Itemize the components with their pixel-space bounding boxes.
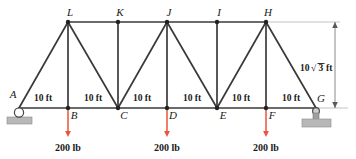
span-dimension-1: 10 ft [84, 93, 103, 103]
truss-diagram-svg: LKJIHABCDEFG 10 ft10 ft10 ft10 ft10 ft10… [0, 0, 356, 159]
joint-L [66, 20, 70, 24]
load-at-B-arrowhead [65, 131, 71, 137]
span-dimension-2: 10 ft [133, 93, 152, 103]
pin-support-G [302, 108, 331, 127]
joint-J [165, 20, 169, 24]
load-arrows [65, 110, 269, 137]
height-dimension-line [332, 22, 338, 108]
node-label-L: L [66, 6, 73, 18]
height-dimension-radicand: 3 [319, 63, 324, 73]
node-label-I: I [216, 6, 222, 18]
joint-B [66, 106, 70, 110]
node-label-B: B [71, 109, 78, 121]
load-at-D-arrowhead [164, 131, 170, 137]
node-label-C: C [120, 109, 128, 121]
truss-members [19, 22, 316, 108]
node-label-G: G [317, 92, 325, 104]
truss-diagram-page: LKJIHABCDEFG 10 ft10 ft10 ft10 ft10 ft10… [0, 0, 356, 159]
height-dimension-prefix: 10 [300, 63, 310, 73]
node-label-H: H [263, 6, 273, 18]
joint-E [215, 106, 219, 110]
joint-H [264, 20, 268, 24]
node-label-J: J [167, 6, 173, 18]
node-label-D: D [168, 109, 177, 121]
span-dimension-0: 10 ft [34, 93, 53, 103]
node-label-A: A [9, 88, 17, 100]
node-label-E: E [219, 109, 227, 121]
height-dimension-label: 10 √ 3 ft [300, 63, 333, 73]
node-label-F: F [268, 109, 276, 121]
load-at-F-arrowhead [263, 131, 269, 137]
joint-I [215, 20, 219, 24]
joint-F [264, 106, 268, 110]
load-at-D-label: 200 lb [154, 142, 180, 153]
load-at-B-label: 200 lb [55, 142, 81, 153]
height-dimension-suffix: ft [326, 63, 333, 73]
load-value-labels: 200 lb200 lb200 lb [55, 142, 279, 153]
span-dimension-4: 10 ft [232, 93, 251, 103]
square-root-icon: √ [311, 63, 317, 73]
span-dimension-5: 10 ft [282, 93, 301, 103]
span-dimension-3: 10 ft [183, 93, 202, 103]
node-label-K: K [115, 6, 124, 18]
load-at-F-label: 200 lb [253, 142, 279, 153]
roller-support-A [7, 108, 32, 124]
joint-K [116, 20, 120, 24]
